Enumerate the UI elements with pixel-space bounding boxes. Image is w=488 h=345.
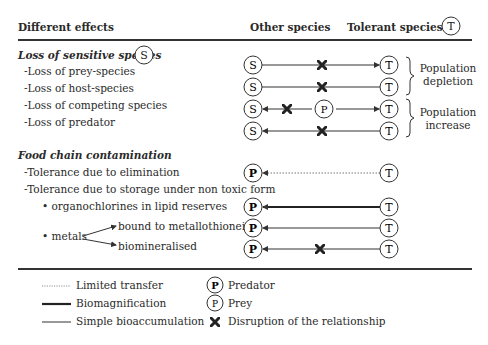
svg-text:T: T: [385, 125, 393, 138]
svg-text:T: T: [385, 59, 393, 72]
svg-text:P: P: [212, 299, 218, 309]
svg-text:S: S: [249, 59, 257, 72]
svg-text:T: T: [385, 103, 393, 116]
svg-text:S: S: [140, 49, 148, 62]
metals-arrow-up: [83, 226, 116, 236]
metals-arrow-down: [83, 239, 116, 245]
relation-host-loss: S T: [244, 78, 398, 96]
relation-metallothionein: P T: [244, 219, 398, 237]
svg-text:P: P: [249, 222, 257, 235]
header-tolerant-symbol: T: [442, 17, 460, 35]
diagram-graphics: T S S T S T S P T S T P T: [0, 0, 488, 345]
relation-elimination: P T: [244, 164, 398, 182]
sensitive-symbol: S: [135, 46, 153, 64]
brace-increase: [406, 99, 414, 137]
svg-text:P: P: [249, 167, 257, 180]
svg-text:S: S: [249, 125, 257, 138]
svg-text:S: S: [249, 103, 257, 116]
svg-text:T: T: [385, 201, 393, 214]
svg-text:S: S: [249, 81, 257, 94]
relation-biomineralised: P T: [244, 240, 398, 258]
svg-text:T: T: [385, 243, 393, 256]
brace-depletion: [406, 57, 414, 95]
svg-text:P: P: [249, 243, 257, 256]
svg-text:T: T: [385, 167, 393, 180]
legend-prey-icon: P: [207, 295, 223, 311]
relation-predator-loss: S T: [244, 122, 398, 140]
svg-text:T: T: [385, 222, 393, 235]
svg-text:T: T: [447, 20, 455, 33]
relation-organochlorines: P T: [244, 198, 398, 216]
svg-text:P: P: [211, 280, 219, 291]
legend-predator-icon: P: [207, 277, 223, 293]
svg-text:P: P: [321, 104, 328, 115]
relation-prey-loss: S T: [244, 56, 398, 74]
relation-competing-loss: S P T: [244, 100, 398, 118]
svg-text:P: P: [249, 201, 257, 214]
legend-disruption-icon: [211, 318, 219, 326]
svg-text:T: T: [385, 81, 393, 94]
